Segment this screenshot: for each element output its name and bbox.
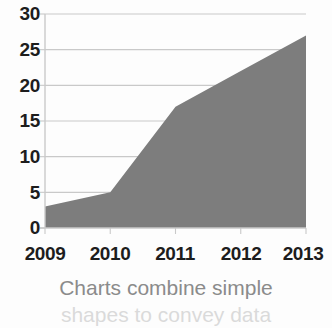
caption-line-2: shapes to convey data: [0, 301, 332, 328]
y-tick-label-15: 15: [2, 111, 40, 130]
x-tick-label-2012: 2012: [221, 243, 262, 265]
x-tick-label-2010: 2010: [90, 243, 131, 265]
y-axis-ticks: [40, 14, 45, 228]
chart-caption: Charts combine simple shapes to convey d…: [0, 274, 332, 328]
area-chart-plot: [0, 0, 332, 240]
x-tick-label-2011: 2011: [155, 243, 195, 265]
y-tick-label-20: 20: [2, 76, 40, 95]
y-axis-labels: 30 25 20 15 10 5 0: [0, 0, 40, 240]
x-tick-label-2013: 2013: [283, 243, 324, 265]
x-tick-label-2009: 2009: [25, 243, 66, 265]
y-tick-label-25: 25: [2, 40, 40, 59]
x-axis-ticks: [45, 228, 306, 234]
y-tick-label-10: 10: [2, 147, 40, 166]
y-tick-label-5: 5: [2, 183, 40, 202]
y-tick-label-30: 30: [2, 4, 40, 23]
y-tick-label-0: 0: [2, 218, 40, 237]
caption-line-1: Charts combine simple: [0, 274, 332, 301]
x-axis-labels: 2009 2010 2011 2012 2013: [45, 243, 306, 271]
area-series-fill: [45, 35, 306, 228]
